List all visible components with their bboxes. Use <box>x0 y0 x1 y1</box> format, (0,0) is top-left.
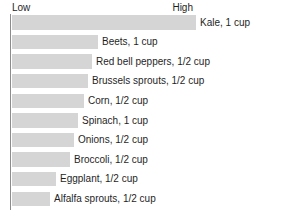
bar-label: Spinach, 1 cup <box>82 113 148 128</box>
bar-label: Onions, 1/2 cup <box>78 132 148 147</box>
bar-label: Kale, 1 cup <box>200 15 250 30</box>
bar-label: Broccoli, 1/2 cup <box>74 152 148 167</box>
bar-row: Broccoli, 1/2 cup <box>0 151 286 171</box>
bar <box>12 94 84 108</box>
bar <box>12 113 78 127</box>
bar <box>12 133 74 147</box>
scale-low-label: Low <box>12 1 30 14</box>
bar-row: Eggplant, 1/2 cup <box>0 171 286 191</box>
bar-row: Kale, 1 cup <box>0 14 286 34</box>
bar-row: Brussels sprouts, 1/2 cup <box>0 73 286 93</box>
bar <box>12 74 88 88</box>
bar <box>12 152 70 166</box>
bar-label: Red bell peppers, 1/2 cup <box>96 54 210 69</box>
bar-row: Corn, 1/2 cup <box>0 92 286 112</box>
bar-row: Beets, 1 cup <box>0 34 286 54</box>
bar-row: Alfalfa sprouts, 1/2 cup <box>0 190 286 210</box>
bar <box>12 35 98 49</box>
bar <box>12 192 50 206</box>
bar <box>12 15 196 29</box>
bar-row: Spinach, 1 cup <box>0 112 286 132</box>
bar-label: Eggplant, 1/2 cup <box>60 171 138 186</box>
scale-high-label: High <box>172 1 193 14</box>
bar-label: Alfalfa sprouts, 1/2 cup <box>54 191 156 206</box>
bar-row: Red bell peppers, 1/2 cup <box>0 53 286 73</box>
bar <box>12 172 56 186</box>
scale-header: Low High <box>11 1 193 14</box>
bar <box>12 54 92 68</box>
horizontal-bar-chart: Low High Kale, 1 cupBeets, 1 cupRed bell… <box>0 0 286 216</box>
bar-row: Onions, 1/2 cup <box>0 132 286 152</box>
bar-list: Kale, 1 cupBeets, 1 cupRed bell peppers,… <box>0 14 286 212</box>
bar-label: Beets, 1 cup <box>102 34 158 49</box>
bar-label: Brussels sprouts, 1/2 cup <box>92 73 204 88</box>
bar-label: Corn, 1/2 cup <box>88 93 148 108</box>
